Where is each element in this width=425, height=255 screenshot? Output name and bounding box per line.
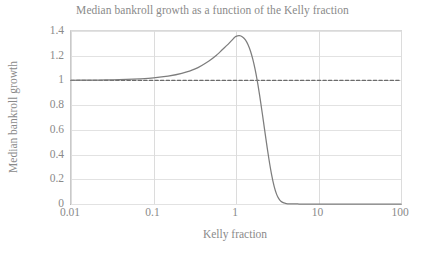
y-tick-label: 1.2: [50, 49, 64, 61]
y-tick-label: 0.4: [50, 148, 64, 160]
y-tick-label: 0.6: [50, 123, 64, 135]
x-tick-label: 100: [391, 206, 408, 219]
chart-container: Median bankroll growth as a function of …: [0, 0, 425, 255]
chart-title: Median bankroll growth as a function of …: [0, 3, 425, 17]
y-axis-label: Median bankroll growth: [7, 61, 19, 173]
gridline-vertical: [401, 31, 402, 204]
x-tick-label: 0.01: [60, 206, 80, 219]
y-tick-label: 1.4: [50, 24, 64, 36]
y-tick-label: 0.8: [50, 98, 64, 110]
x-tick-label: 10: [312, 206, 324, 219]
y-axis-label-container: Median bankroll growth: [4, 30, 22, 203]
plot-inner: [71, 31, 401, 204]
x-tick-label: 0.1: [145, 206, 159, 219]
plot-area: [70, 30, 402, 205]
data-curve: [71, 36, 401, 204]
x-axis-label: Kelly fraction: [70, 228, 400, 240]
x-tick-label: 1: [232, 206, 238, 219]
data-curve-layer: [71, 31, 401, 204]
y-tick-label: 1: [58, 73, 64, 85]
y-tick-label: 0.2: [50, 172, 64, 184]
